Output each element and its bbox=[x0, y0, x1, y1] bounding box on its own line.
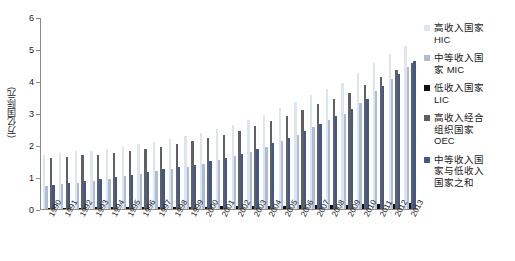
y-tick-mark bbox=[36, 114, 40, 115]
y-tick-label: 0 bbox=[29, 205, 34, 215]
x-tick: 2011 bbox=[372, 212, 388, 260]
bar-group bbox=[308, 18, 324, 209]
x-tick: 1991 bbox=[57, 212, 73, 260]
y-tick-mark bbox=[36, 178, 40, 179]
x-tick: 2006 bbox=[293, 212, 309, 260]
legend-item-hic[interactable]: 高收入国家 HIC bbox=[424, 22, 514, 45]
bar-sum bbox=[382, 86, 384, 209]
bar-group bbox=[151, 18, 167, 209]
legend-swatch-icon bbox=[424, 25, 430, 31]
y-tick-mark bbox=[36, 50, 40, 51]
bar-group bbox=[214, 18, 230, 209]
x-tick: 1996 bbox=[136, 212, 152, 260]
bar-sum bbox=[413, 61, 415, 209]
bar-group bbox=[72, 18, 88, 209]
y-tick-label: 1 bbox=[29, 173, 34, 183]
bar-group bbox=[229, 18, 245, 209]
bar-sum bbox=[304, 131, 306, 209]
legend-label: 高收入经合 组织国家 OEC bbox=[434, 112, 484, 147]
legend-item-oec[interactable]: 高收入经合 组织国家 OEC bbox=[424, 112, 514, 147]
bar-mic bbox=[407, 67, 409, 209]
y-tick-mark bbox=[36, 146, 40, 147]
bar-group bbox=[135, 18, 151, 209]
x-tick: 1998 bbox=[167, 212, 183, 260]
x-tick: 2008 bbox=[325, 212, 341, 260]
bar-group bbox=[371, 18, 387, 209]
bar-sum bbox=[288, 138, 290, 209]
legend-label: 中等收入国 家与低收入 国家之和 bbox=[434, 154, 484, 189]
y-tick-mark bbox=[36, 210, 40, 211]
bar-mic bbox=[359, 103, 361, 209]
bar-groups bbox=[41, 18, 418, 209]
legend-swatch-icon bbox=[424, 157, 430, 163]
bar-sum bbox=[398, 74, 400, 209]
bar-mic bbox=[312, 127, 314, 209]
bar-chart: (万亿国际元) 0123456 199019911992199319941995… bbox=[0, 0, 515, 261]
legend-swatch-icon bbox=[424, 55, 430, 61]
x-tick: 2001 bbox=[214, 212, 230, 260]
y-tick-label: 2 bbox=[29, 141, 34, 151]
y-tick-label: 6 bbox=[29, 13, 34, 23]
bar-mic bbox=[344, 114, 346, 209]
x-tick: 2009 bbox=[340, 212, 356, 260]
bar-mic bbox=[391, 79, 393, 209]
y-axis-title: (万亿国际元) bbox=[2, 48, 20, 178]
x-tick: 2003 bbox=[246, 212, 262, 260]
x-tick: 2002 bbox=[230, 212, 246, 260]
plot-area: 0123456 bbox=[40, 18, 418, 210]
bar-sum bbox=[366, 99, 368, 209]
legend-label: 高收入国家 HIC bbox=[434, 22, 484, 45]
bar-group bbox=[182, 18, 198, 209]
bar-mic bbox=[265, 147, 267, 209]
x-tick: 1994 bbox=[104, 212, 120, 260]
chart-legend: 高收入国家 HIC中等收入国 家 MIC低收入国家 LIC高收入经合 组织国家 … bbox=[424, 22, 514, 195]
y-tick-label: 4 bbox=[29, 77, 34, 87]
bar-sum bbox=[351, 109, 353, 209]
bar-group bbox=[198, 18, 214, 209]
bar-group bbox=[57, 18, 73, 209]
x-tick: 1999 bbox=[183, 212, 199, 260]
legend-item-mic[interactable]: 中等收入国 家 MIC bbox=[424, 52, 514, 75]
legend-swatch-icon bbox=[424, 85, 430, 91]
y-tick-label: 3 bbox=[29, 109, 34, 119]
bar-group bbox=[88, 18, 104, 209]
bar-group bbox=[104, 18, 120, 209]
legend-item-lic[interactable]: 低收入国家 LIC bbox=[424, 82, 514, 105]
y-tick-mark bbox=[36, 82, 40, 83]
x-tick: 1993 bbox=[88, 212, 104, 260]
bar-group bbox=[355, 18, 371, 209]
x-tick: 1990 bbox=[41, 212, 57, 260]
bar-group bbox=[402, 18, 418, 209]
x-tick: 2000 bbox=[199, 212, 215, 260]
x-axis-labels: 1990199119921993199419951996199719981999… bbox=[41, 212, 419, 260]
bar-group bbox=[41, 18, 57, 209]
bar-group bbox=[245, 18, 261, 209]
bar-mic bbox=[328, 120, 330, 209]
bar-group bbox=[339, 18, 355, 209]
legend-item-sum[interactable]: 中等收入国 家与低收入 国家之和 bbox=[424, 154, 514, 189]
x-tick: 2004 bbox=[262, 212, 278, 260]
x-tick: 1995 bbox=[120, 212, 136, 260]
bar-mic bbox=[375, 91, 377, 209]
bar-mic bbox=[45, 186, 47, 209]
bar-group bbox=[386, 18, 402, 209]
x-tick: 1992 bbox=[73, 212, 89, 260]
bar-group bbox=[261, 18, 277, 209]
bar-group bbox=[167, 18, 183, 209]
bar-group bbox=[324, 18, 340, 209]
x-tick: 2007 bbox=[309, 212, 325, 260]
legend-swatch-icon bbox=[424, 115, 430, 121]
bar-group bbox=[277, 18, 293, 209]
x-tick: 2013 bbox=[403, 212, 419, 260]
y-tick-label: 5 bbox=[29, 45, 34, 55]
x-tick: 2012 bbox=[388, 212, 404, 260]
legend-label: 低收入国家 LIC bbox=[434, 82, 484, 105]
bar-group bbox=[292, 18, 308, 209]
legend-label: 中等收入国 家 MIC bbox=[434, 52, 484, 75]
bar-group bbox=[120, 18, 136, 209]
bar-sum bbox=[335, 116, 337, 209]
x-tick: 1997 bbox=[151, 212, 167, 260]
bar-mic bbox=[281, 141, 283, 209]
x-tick: 2010 bbox=[356, 212, 372, 260]
x-tick: 2005 bbox=[277, 212, 293, 260]
